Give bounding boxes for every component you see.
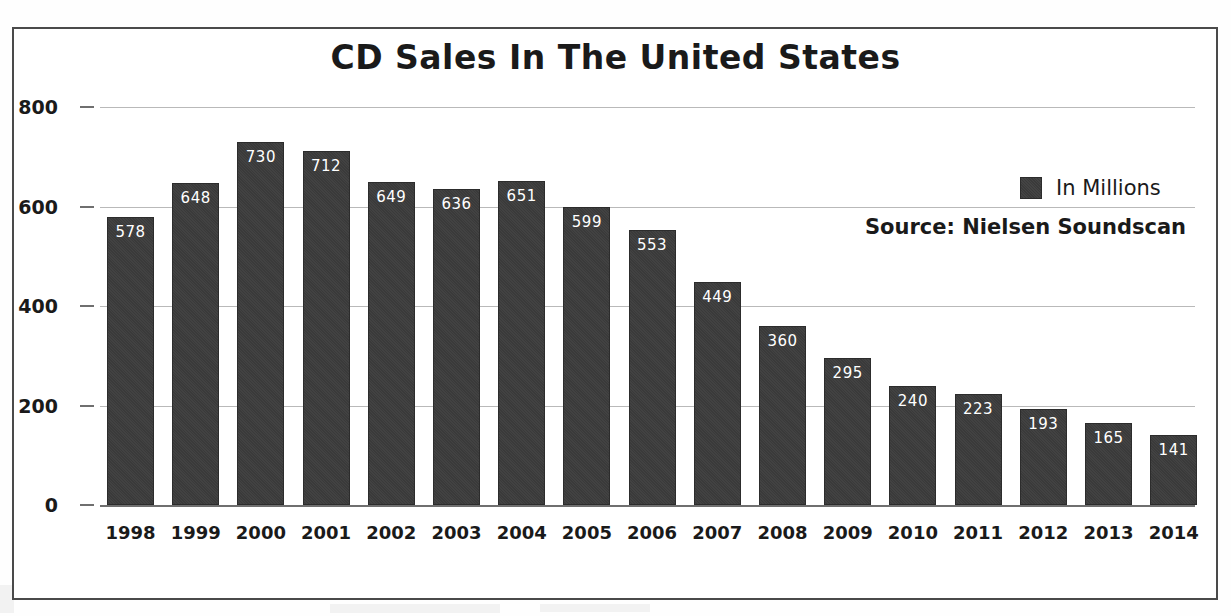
bar-2013[interactable]: 165 (1085, 423, 1132, 505)
bar-2011[interactable]: 223 (955, 394, 1002, 505)
plot-area: 0200400600800 57864873071264963665159955… (100, 107, 1195, 505)
bar-chart: CD Sales In The United States 0200400600… (0, 0, 1231, 616)
x-axis-label-2006: 2006 (617, 522, 687, 543)
bar-value-label-2000: 730 (238, 148, 283, 166)
bar-value-label-1998: 578 (108, 223, 153, 241)
x-axis-label-2005: 2005 (552, 522, 622, 543)
x-axis-label-2001: 2001 (291, 522, 361, 543)
bar-2006[interactable]: 553 (629, 230, 676, 505)
y-axis-tick-0: 0 (0, 494, 58, 516)
bar-value-label-2010: 240 (890, 392, 935, 410)
bar-value-label-2007: 449 (695, 288, 740, 306)
x-axis-label-2012: 2012 (1008, 522, 1078, 543)
bar-value-label-2001: 712 (304, 157, 349, 175)
bar-value-label-2005: 599 (564, 213, 609, 231)
x-axis-label-1998: 1998 (96, 522, 166, 543)
x-axis-label-2007: 2007 (682, 522, 752, 543)
x-axis-label-2009: 2009 (813, 522, 883, 543)
x-axis-label-2010: 2010 (878, 522, 948, 543)
bar-value-label-2014: 141 (1151, 441, 1196, 459)
x-axis-label-2002: 2002 (356, 522, 426, 543)
bar-2010[interactable]: 240 (889, 386, 936, 505)
legend-label: In Millions (1056, 176, 1161, 200)
bar-2012[interactable]: 193 (1020, 409, 1067, 505)
gridline-800 (100, 107, 1195, 108)
y-axis-tick-400: 400 (0, 295, 58, 317)
x-axis-label-1999: 1999 (161, 522, 231, 543)
bar-value-label-2008: 360 (760, 332, 805, 350)
x-axis-label-2008: 2008 (748, 522, 818, 543)
bar-value-label-2006: 553 (630, 236, 675, 254)
bar-2001[interactable]: 712 (303, 151, 350, 505)
y-axis-tick-600: 600 (0, 196, 58, 218)
y-axis-tick-mark-400 (80, 305, 94, 307)
x-axis-label-2013: 2013 (1074, 522, 1144, 543)
bar-2000[interactable]: 730 (237, 142, 284, 505)
bar-value-label-2012: 193 (1021, 415, 1066, 433)
bar-value-label-2013: 165 (1086, 429, 1131, 447)
bar-value-label-1999: 648 (173, 189, 218, 207)
x-axis-label-2014: 2014 (1139, 522, 1209, 543)
bar-value-label-2002: 649 (369, 188, 414, 206)
bar-value-label-2009: 295 (825, 364, 870, 382)
legend: In Millions (1020, 176, 1161, 200)
y-axis-tick-mark-600 (80, 206, 94, 208)
bar-value-label-2004: 651 (499, 187, 544, 205)
bar-2003[interactable]: 636 (433, 189, 480, 505)
gridline-0 (100, 505, 1195, 507)
bar-2014[interactable]: 141 (1150, 435, 1197, 505)
bar-2007[interactable]: 449 (694, 282, 741, 505)
source-attribution: Source: Nielsen Soundscan (865, 215, 1186, 239)
bar-value-label-2003: 636 (434, 195, 479, 213)
chart-title: CD Sales In The United States (0, 38, 1231, 77)
legend-swatch-icon (1020, 177, 1042, 199)
page-background: CD Sales In The United States 0200400600… (0, 0, 1231, 616)
bar-2002[interactable]: 649 (368, 182, 415, 505)
bar-2004[interactable]: 651 (498, 181, 545, 505)
y-axis-tick-mark-0 (80, 504, 94, 506)
x-axis-label-2000: 2000 (226, 522, 296, 543)
bar-2009[interactable]: 295 (824, 358, 871, 505)
bar-2008[interactable]: 360 (759, 326, 806, 505)
bar-value-label-2011: 223 (956, 400, 1001, 418)
bar-2005[interactable]: 599 (563, 207, 610, 505)
bar-1999[interactable]: 648 (172, 183, 219, 505)
bar-1998[interactable]: 578 (107, 217, 154, 505)
x-axis-label-2003: 2003 (422, 522, 492, 543)
y-axis-tick-mark-200 (80, 405, 94, 407)
x-axis-label-2004: 2004 (487, 522, 557, 543)
y-axis-tick-200: 200 (0, 395, 58, 417)
y-axis-tick-800: 800 (0, 96, 58, 118)
y-axis-tick-mark-800 (80, 106, 94, 108)
x-axis-label-2011: 2011 (943, 522, 1013, 543)
